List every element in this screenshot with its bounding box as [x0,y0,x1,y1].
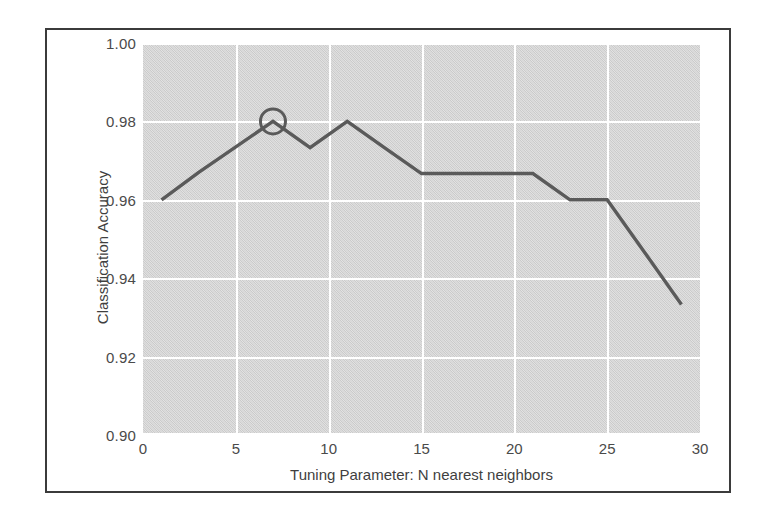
series-svg [143,43,700,435]
y-axis-tick-labels: 0.900.920.940.960.981.00 [66,43,136,435]
x-tick-label: 0 [139,440,147,457]
y-tick-label: 1.00 [72,35,136,52]
accuracy-line [162,121,682,304]
x-tick-label: 15 [413,440,430,457]
x-tick-label: 25 [599,440,616,457]
y-tick-label: 0.92 [72,348,136,365]
y-tick-label: 0.90 [72,427,136,444]
line-chart-figure: Classification Accuracy 0.900.920.940.96… [0,0,766,517]
chart-screenshot: Classification Accuracy 0.900.920.940.96… [0,0,766,517]
y-tick-label: 0.96 [72,191,136,208]
y-tick-label: 0.98 [72,113,136,130]
plot-area [143,43,700,435]
x-axis-title: Tuning Parameter: N nearest neighbors [143,466,700,483]
x-tick-label: 30 [692,440,709,457]
x-axis-tick-labels: 051015202530 [143,440,700,462]
x-tick-label: 5 [232,440,240,457]
y-tick-label: 0.94 [72,270,136,287]
x-tick-label: 10 [320,440,337,457]
x-tick-label: 20 [506,440,523,457]
